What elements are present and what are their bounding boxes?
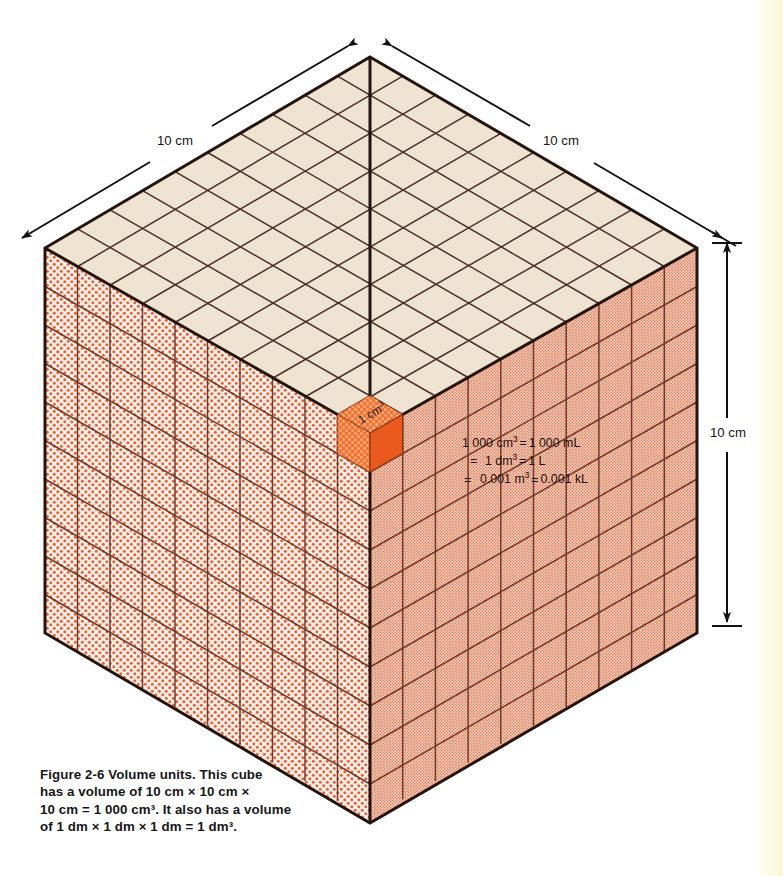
- equation-row-3: =0.001 m3=0.001 kL: [462, 466, 588, 484]
- equation-3-op: =: [529, 471, 540, 489]
- equation-3-rhs: 0.001 kL: [540, 473, 588, 487]
- dimension-label-vertical: 10 cm: [710, 425, 746, 440]
- caption-line-3: 10 cm = 1 000 cm³. It also has a volume: [40, 801, 340, 818]
- caption-line-1: Figure 2-6 Volume units. This cube: [40, 766, 340, 783]
- figure-page: 10 cm 10 cm 10 cm 1 cm3 1 000 cm3=1 000 …: [0, 0, 783, 876]
- figure-caption: Figure 2-6 Volume units. This cube has a…: [40, 766, 340, 836]
- caption-line-2: has a volume of 10 cm × 10 cm ×: [40, 783, 340, 800]
- equation-row-2: =1 dm3=1 L: [468, 448, 588, 466]
- equation-3-lead-op: =: [462, 471, 473, 489]
- caption-line-4: of 1 dm × 1 dm × 1 dm = 1 dm³.: [40, 818, 340, 835]
- equation-row-1: 1 000 cm3=1 000 mL: [462, 430, 588, 448]
- dimension-label-top-right: 10 cm: [543, 133, 579, 148]
- equation-3-lhs: 0.001 m: [480, 473, 525, 487]
- volume-cube-diagram: [0, 0, 783, 876]
- equation-block: 1 000 cm3=1 000 mL =1 dm3=1 L =0.001 m3=…: [462, 430, 588, 485]
- dimension-label-top-left: 10 cm: [157, 133, 193, 148]
